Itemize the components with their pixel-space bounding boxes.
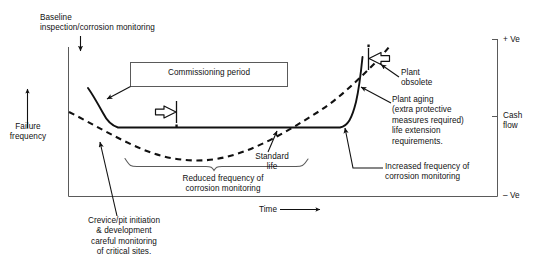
y-axis-right-top-label: + Ve <box>503 35 543 45</box>
commissioning-period-label: Commissioning period <box>131 68 287 78</box>
commissioning-period-leader <box>107 87 131 100</box>
plant-aging-leader <box>361 87 391 103</box>
x-axis-label: Time <box>235 205 277 215</box>
standard-life-label: Standard life <box>243 152 301 173</box>
plant-life-cycle-diagram: Baseline inspection/corrosion monitoring… <box>0 0 545 265</box>
y-axis-right-label: Cash flow <box>503 111 543 132</box>
commissioning-flag-left-icon <box>156 101 178 127</box>
increased-frequency-label: Increased frequency of corrosion monitor… <box>385 162 503 183</box>
crevice-pit-leader <box>100 142 117 216</box>
reduced-frequency-label: Reduced frequency of corrosion monitorin… <box>143 174 303 195</box>
y-axis-right-bottom-label: – Ve <box>503 191 543 201</box>
baseline-annotation: Baseline inspection/corrosion monitoring <box>40 13 215 34</box>
y-axis-left-label: Failure frequency <box>2 122 54 143</box>
plant-aging-label: Plant aging (extra protective measures r… <box>392 95 502 147</box>
plant-obsolete-label: Plant obsolete <box>401 68 461 89</box>
plant-obsolete-leader <box>381 65 399 78</box>
increased-frequency-leader <box>345 128 383 168</box>
crevice-pit-label: Crevice/pit initiation & development car… <box>64 216 184 258</box>
